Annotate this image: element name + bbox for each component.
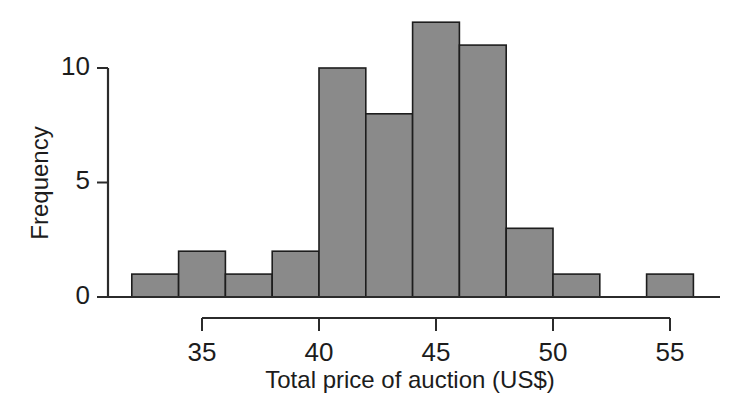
x-axis-ticks	[202, 318, 670, 331]
y-axis-tick-label: 10	[61, 51, 90, 81]
x-axis-title: Total price of auction (US$)	[265, 366, 554, 393]
x-axis-tick-label: 40	[305, 337, 334, 367]
y-axis-tick-label: 0	[76, 280, 90, 310]
histogram-svg: 0510 3540455055 Frequency Total price of…	[0, 0, 751, 403]
histogram-bar	[132, 274, 179, 297]
histogram-bar	[179, 251, 226, 297]
histogram-bar	[319, 68, 366, 297]
histogram-bars	[132, 22, 694, 297]
histogram-bar	[553, 274, 600, 297]
histogram-bar	[506, 228, 553, 297]
x-axis-tick-label: 55	[656, 337, 685, 367]
histogram-bar	[459, 45, 506, 297]
histogram-bar	[272, 251, 319, 297]
x-axis-tick-label: 45	[422, 337, 451, 367]
histogram-bar	[647, 274, 694, 297]
histogram-plot: 0510 3540455055 Frequency Total price of…	[0, 0, 751, 403]
y-axis-tick-label: 5	[76, 165, 90, 195]
y-axis-title: Frequency	[26, 126, 53, 239]
y-axis-ticks	[97, 68, 108, 297]
x-axis-tick-labels: 3540455055	[188, 337, 685, 367]
x-axis-tick-label: 50	[539, 337, 568, 367]
histogram-bar	[413, 22, 460, 297]
histogram-bar	[366, 114, 413, 297]
y-axis-tick-labels: 0510	[61, 51, 90, 310]
x-axis-tick-label: 35	[188, 337, 217, 367]
histogram-bar	[225, 274, 272, 297]
chart-page: 0510 3540455055 Frequency Total price of…	[0, 0, 751, 403]
